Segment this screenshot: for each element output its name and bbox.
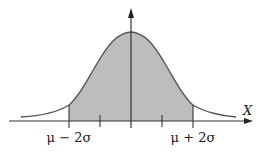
left-bound-label: μ − 2σ: [47, 130, 92, 145]
right-bound-label: μ + 2σ: [171, 130, 216, 145]
x-axis-arrow-icon: [244, 118, 253, 124]
y-axis-arrow-icon: [128, 8, 134, 18]
x-axis-label: X: [242, 103, 253, 118]
normal-curve-diagram: X μ − 2σ μ + 2σ: [0, 0, 260, 153]
